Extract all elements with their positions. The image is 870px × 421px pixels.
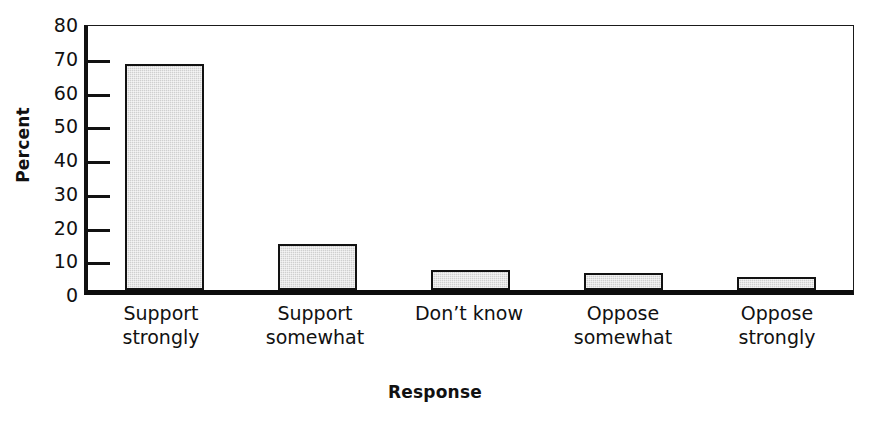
y-axis-tick-label: 50 bbox=[54, 117, 78, 136]
x-axis-category-label: Don’t know bbox=[392, 302, 546, 350]
plot-inner bbox=[88, 26, 853, 290]
x-axis-category-label: Oppose strongly bbox=[700, 302, 854, 350]
bar[interactable] bbox=[584, 273, 664, 290]
bar[interactable] bbox=[125, 64, 205, 290]
x-axis-category-label: Support somewhat bbox=[238, 302, 392, 350]
x-axis-category-labels: Support stronglySupport somewhatDon’t kn… bbox=[84, 302, 854, 350]
y-axis-title-text: Percent bbox=[13, 107, 33, 183]
y-axis-title: Percent bbox=[6, 0, 40, 290]
y-axis-tick-label: 70 bbox=[54, 49, 78, 68]
bar-slot bbox=[547, 26, 700, 290]
y-axis-tick-label: 0 bbox=[66, 286, 78, 305]
bar[interactable] bbox=[737, 277, 817, 291]
bar-slot bbox=[700, 26, 853, 290]
y-axis-tick-label: 60 bbox=[54, 83, 78, 102]
y-axis-tick-label: 10 bbox=[54, 252, 78, 271]
bar-slot bbox=[88, 26, 241, 290]
bar-series bbox=[88, 26, 853, 290]
bar-chart-figure: Percent 01020304050607080 Support strong… bbox=[0, 0, 870, 421]
y-axis-tick-label: 30 bbox=[54, 184, 78, 203]
y-axis-tick-label: 20 bbox=[54, 218, 78, 237]
bar-slot bbox=[241, 26, 394, 290]
bar-slot bbox=[394, 26, 547, 290]
x-axis-title: Response bbox=[0, 382, 870, 402]
x-axis-category-label: Oppose somewhat bbox=[546, 302, 700, 350]
y-axis-tick-label: 40 bbox=[54, 151, 78, 170]
plot-area bbox=[84, 25, 854, 295]
y-axis-tick-labels: 01020304050607080 bbox=[38, 0, 78, 300]
x-axis-category-label: Support strongly bbox=[84, 302, 238, 350]
bar[interactable] bbox=[431, 270, 511, 290]
y-axis-tick-label: 80 bbox=[54, 16, 78, 35]
bar[interactable] bbox=[278, 244, 358, 290]
